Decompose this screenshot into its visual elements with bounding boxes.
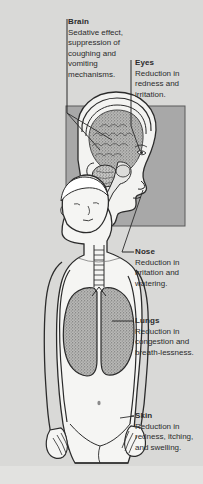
callout-skin: Skin Reduction in redness, itching, and … <box>135 411 197 453</box>
callout-brain-body: Sedative effect, suppression of coughing… <box>68 28 130 81</box>
callout-eyes-body: Reduction in redness and irritation. <box>135 69 197 101</box>
callout-eyes-heading: Eyes <box>135 58 197 69</box>
callout-lungs-heading: Lungs <box>135 316 197 327</box>
callout-lungs: Lungs Reduction in congestion and breath… <box>135 316 197 358</box>
callout-nose: Nose Reduction in irritation and waterin… <box>135 247 197 289</box>
callout-brain: Brain Sedative effect, suppression of co… <box>68 17 130 80</box>
callout-nose-heading: Nose <box>135 247 197 258</box>
callout-skin-body: Reduction in redness, itching, and swell… <box>135 422 197 454</box>
callout-brain-heading: Brain <box>68 17 130 28</box>
illustration-stage: Brain Sedative effect, suppression of co… <box>0 0 203 484</box>
callout-skin-heading: Skin <box>135 411 197 422</box>
callout-lungs-body: Reduction in congestion and breath-lessn… <box>135 327 197 359</box>
bottom-band <box>0 466 203 484</box>
midbrain <box>116 165 130 177</box>
left-hand <box>46 428 67 458</box>
callout-nose-body: Reduction in irritation and watering. <box>135 258 197 290</box>
callout-eyes: Eyes Reduction in redness and irritation… <box>135 58 197 100</box>
pupil <box>140 151 143 154</box>
navel <box>97 401 100 405</box>
